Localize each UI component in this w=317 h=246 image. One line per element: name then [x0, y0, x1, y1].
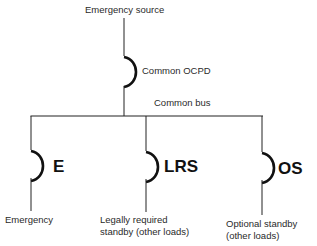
common-ocpd-breaker-icon [124, 57, 136, 87]
branch-lrs-description-line2: standby (other loads) [100, 226, 189, 238]
branch-e-description: Emergency [5, 214, 53, 226]
one-line-diagram [0, 0, 317, 246]
common-bus-label: Common bus [154, 97, 211, 109]
source-label: Emergency source [85, 4, 164, 16]
branch-os-breaker-icon [262, 153, 274, 183]
common-ocpd-label: Common OCPD [142, 65, 211, 77]
branch-os-description-line2: (other loads) [226, 230, 279, 242]
branch-lrs-breaker-icon [146, 152, 158, 182]
branch-e-code: E [53, 158, 64, 176]
branch-os-code: OS [278, 160, 303, 178]
branch-lrs-code: LRS [164, 158, 198, 176]
branch-os-description-line1: Optional standby [226, 218, 297, 230]
branch-e-breaker-icon [31, 151, 43, 181]
branch-lrs-description-line1: Legally required [100, 214, 168, 226]
